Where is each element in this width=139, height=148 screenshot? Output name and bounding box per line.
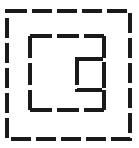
figure-background	[0, 0, 139, 148]
figure-container	[0, 0, 139, 148]
nested-squares-diagram	[0, 0, 139, 148]
